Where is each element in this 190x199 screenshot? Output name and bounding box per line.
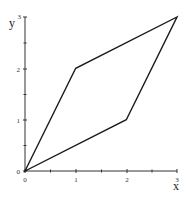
parallelogram-shape <box>25 17 177 171</box>
x-tick-label-0: 0 <box>23 176 27 184</box>
x-tick-label-2: 2 <box>125 176 129 184</box>
y-tick-label-1: 1 <box>17 117 21 125</box>
chart-canvas: 0 1 2 3 0 1 2 3 y x <box>0 0 190 199</box>
x-axis-label: x <box>173 179 179 193</box>
x-tick-label-1: 1 <box>74 176 78 184</box>
y-tick-label-2: 2 <box>17 66 21 74</box>
y-tick-label-3: 3 <box>18 13 22 21</box>
y-axis-label: y <box>9 16 15 30</box>
y-tick-label-0: 0 <box>17 168 21 176</box>
